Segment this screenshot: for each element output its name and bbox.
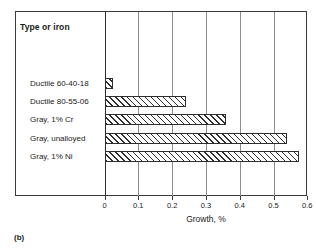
bar [105,133,288,144]
x-tick-label-0.3: 0.3 [201,201,211,210]
figure-container: Type or iron 00.10.20.30.40.50.6 Ductile… [0,0,316,248]
x-tick-label-0.5: 0.5 [268,201,278,210]
x-tick-0.4 [240,196,241,200]
gridline-0.4 [240,12,241,196]
gridline-0.3 [206,12,207,196]
bar [105,78,113,89]
bar [105,151,299,162]
column-header: Type or iron [20,22,70,32]
x-tick-label-0.1: 0.1 [133,201,143,210]
figure-caption: (b) [14,233,24,242]
bar [105,96,186,107]
bar [105,114,227,125]
x-tick-0 [105,196,106,200]
category-label: Gray, 1% Cr [30,115,73,124]
category-label: Gray, unalloyed [30,134,85,143]
x-tick-label-0: 0 [102,201,106,210]
category-label: Ductile 60-40-18 [30,79,89,88]
category-label: Gray, 1% Ni [30,152,73,161]
gridline-0.5 [274,12,275,196]
category-label: Ductile 80-55-06 [30,97,89,106]
x-tick-label-0.2: 0.2 [167,201,177,210]
x-tick-label-0.4: 0.4 [234,201,244,210]
x-tick-0.5 [274,196,275,200]
x-tick-0.1 [138,196,139,200]
x-tick-0.2 [172,196,173,200]
x-tick-0.6 [307,196,308,200]
x-tick-0.3 [206,196,207,200]
x-axis-title: Growth, % [186,214,226,224]
x-tick-label-0.6: 0.6 [302,201,312,210]
